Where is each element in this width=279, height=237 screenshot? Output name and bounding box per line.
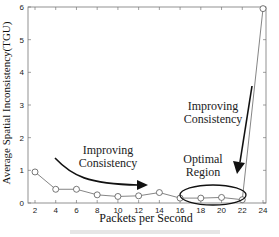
y-tick-label: 5 (20, 36, 25, 45)
annotation-improving-2-line2: Consistency (184, 112, 243, 126)
arrow-head-down-icon (233, 161, 245, 174)
data-point-marker (115, 193, 121, 199)
x-tick-label: 4 (54, 206, 59, 215)
y-tick-label: 2 (20, 134, 25, 143)
data-point-marker (94, 192, 100, 198)
data-point-marker (219, 194, 225, 200)
y-tick-label: 6 (20, 3, 25, 12)
data-point-marker (53, 186, 59, 192)
annotation-improving-1-line1: Improving (83, 143, 134, 157)
y-tick-label: 0 (20, 199, 25, 208)
data-point-marker (156, 190, 162, 196)
optimal-region-ellipse (180, 185, 246, 205)
x-tick-label: 24 (259, 206, 268, 215)
annotation-optimal-line1: Optimal (183, 152, 223, 166)
data-point-marker (136, 193, 142, 199)
x-tick-label: 20 (217, 206, 226, 215)
x-tick-label: 22 (238, 206, 247, 215)
faded-caption (70, 230, 220, 234)
y-axis-title: Average Spatial Inconsistency(TGU) (0, 21, 13, 184)
data-point-marker (32, 169, 38, 175)
x-tick-label: 18 (196, 206, 205, 215)
annotation-improving-1-line2: Consistency (79, 156, 138, 170)
y-tick-label: 1 (20, 166, 25, 175)
annotation-improving-2-line1: Improving (188, 99, 239, 113)
data-point-marker (73, 186, 79, 192)
x-axis-title: Packets per Second (99, 211, 192, 225)
x-tick-label: 2 (33, 206, 38, 215)
y-tick-label: 4 (20, 68, 25, 77)
x-tick-label: 6 (74, 206, 79, 215)
y-tick-label: 3 (20, 101, 25, 110)
y-tick-labels: 0123456 (20, 3, 25, 208)
arrow-head-right-icon (137, 180, 148, 190)
data-point-marker (198, 195, 204, 201)
annotation-optimal-line2: Region (186, 165, 221, 179)
line-chart: 24681012141618202224 0123456 Packets per… (0, 0, 279, 237)
data-point-marker (260, 6, 266, 12)
